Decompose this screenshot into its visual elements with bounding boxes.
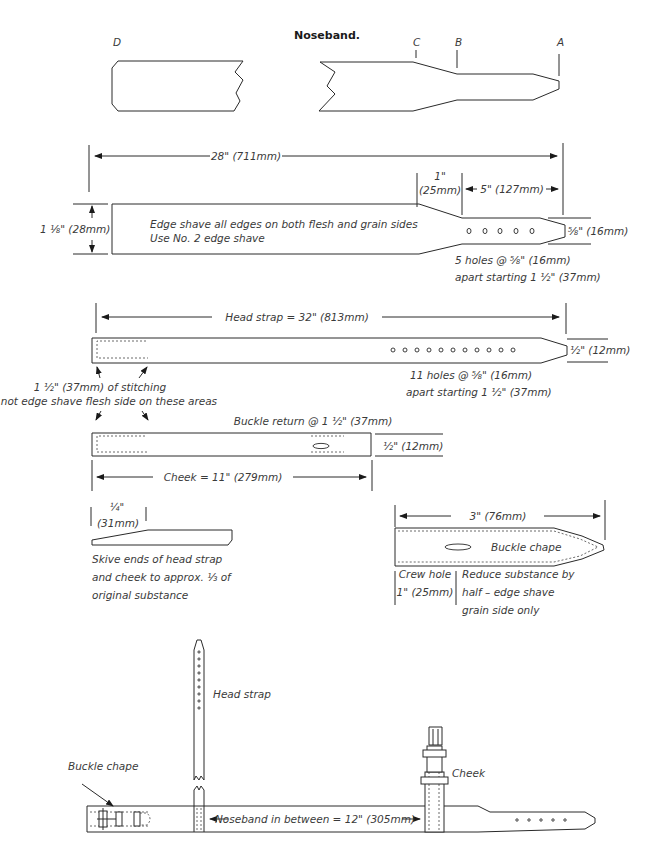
assembly-head-strap-holes [198, 651, 200, 709]
reduce-note-1: Reduce substance by [462, 568, 575, 580]
crew-hole [445, 544, 471, 550]
head-strap-length-label: Head strap = 32" (813mm) [225, 311, 369, 323]
noseband-dimension-section: 28" (711mm) 1" (25mm) 5" (127mm) 1 ⅛" (2… [40, 143, 628, 283]
head-strap-section: Head strap = 32" (813mm) ½" (12mm) 11 ho… [0, 303, 630, 407]
head-strap-holes-note-1: 11 holes @ ⅝" (16mm) [410, 369, 532, 381]
point-label-d: D [113, 36, 121, 48]
noseband-profile-section: Noseband. D C B A [112, 29, 564, 111]
stitching-note-1: 1 ½" (37mm) of stitching [34, 381, 167, 393]
noseband-holes [467, 228, 534, 233]
chape-label: Buckle chape [491, 541, 561, 553]
taper-mm-label: (25mm) [419, 184, 461, 196]
edge-shave-note-1: Edge shave all edges on both flesh and g… [150, 218, 418, 230]
head-strap-holes-note-2: apart starting 1 ½" (37mm) [406, 386, 552, 398]
point-label-a: A [556, 36, 564, 48]
crew-hole-label-2: 1" (25mm) [397, 586, 454, 598]
skive-note-2: and cheek to approx. ⅓ of [92, 571, 233, 583]
stitching-note-2: Do not edge shave flesh side on these ar… [0, 395, 218, 407]
cheek-length-label: Cheek = 11" (279mm) [164, 471, 283, 483]
head-strap-width-label: ½" (12mm) [570, 344, 630, 356]
buckle-chape-section: 3" (76mm) Buckle chape Crew hole 1" (25m… [395, 500, 605, 616]
cheek-strap [92, 433, 371, 456]
assembly-cheek-buckle [429, 727, 442, 745]
diagram-title: Noseband. [294, 29, 360, 42]
assembly-cheek-label: Cheek [452, 767, 486, 779]
skive-width-label: ¼" [110, 502, 124, 513]
tip-length-label: 5" (127mm) [480, 183, 544, 195]
taper-label: 1" [434, 170, 446, 182]
head-strap [92, 338, 567, 363]
tip-width-label: ⅝" (16mm) [568, 225, 628, 237]
assembly-cheek-keeper [421, 777, 448, 784]
between-label: Noseband in between = 12" (305mm) [215, 813, 415, 825]
point-label-c: C [413, 36, 421, 48]
skive-section: ¼" (31mm) Skive ends of head strap and c… [91, 502, 233, 601]
chape-length-label: 3" (76mm) [470, 510, 527, 522]
noseband-holes-note-2: apart starting 1 ½" (37mm) [455, 271, 601, 283]
edge-shave-note-2: Use No. 2 edge shave [150, 232, 265, 244]
crew-hole-label-1: Crew hole [399, 568, 452, 580]
reduce-note-3: grain side only [462, 604, 540, 616]
noseband-length-label: 28" (711mm) [211, 150, 281, 162]
head-strap-stitching [97, 341, 148, 358]
point-label-b: B [455, 36, 462, 48]
skive-width-mm-label: (31mm) [97, 517, 139, 529]
noseband-end-a-shape [319, 62, 559, 111]
noseband-width-label: 1 ⅛" (28mm) [40, 223, 110, 235]
skive-note-1: Skive ends of head strap [92, 553, 223, 565]
assembly-head-strap [194, 640, 204, 780]
cheek-width-label: ½" (12mm) [383, 440, 443, 452]
reduce-note-2: half – edge shave [462, 586, 554, 598]
cheek-section: Buckle return @ 1 ½" (37mm) ½" (12mm) Ch… [92, 411, 443, 491]
skive-note-3: original substance [92, 589, 188, 601]
noseband-end-d-shape [112, 61, 243, 111]
assembly-head-strap-label: Head strap [213, 688, 271, 700]
cheek-buckle-slot [313, 443, 329, 448]
assembly-section: Head strap Buckle chape Noseband in betw… [68, 640, 595, 832]
buckle-return-label: Buckle return @ 1 ½" (37mm) [234, 415, 393, 427]
noseband-holes-note-1: 5 holes @ ⅝" (16mm) [455, 254, 570, 266]
assembly-noseband-holes [516, 819, 566, 821]
assembly-chape-label: Buckle chape [68, 760, 138, 772]
skive-profile [92, 530, 232, 545]
head-strap-holes [391, 348, 515, 352]
